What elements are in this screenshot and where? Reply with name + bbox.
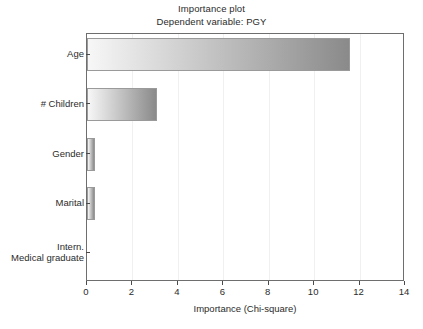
importance-plot-chart: Importance plot Dependent variable: PGY … — [0, 0, 423, 329]
x-axis-tick-label: 12 — [344, 286, 374, 298]
x-axis-tick-label: 10 — [298, 286, 328, 298]
y-axis-tick-mark — [86, 203, 90, 204]
chart-subtitle: Dependent variable: PGY — [0, 15, 423, 28]
y-axis-tick-label: # Children — [0, 98, 84, 109]
y-axis-labels: Age# ChildrenGenderMaritalIntern. Medica… — [0, 33, 84, 281]
x-axis-tick-label: 6 — [207, 286, 237, 298]
x-axis-tick-mark — [404, 281, 405, 285]
x-axis-tick-label: 8 — [253, 286, 283, 298]
y-axis-tick-label: Marital — [0, 197, 84, 208]
y-axis-tick-mark — [86, 54, 90, 55]
y-axis-tick-label: Intern. Medical graduate — [0, 241, 84, 263]
x-axis-tick-mark — [313, 281, 314, 285]
x-axis-tick-mark — [222, 281, 223, 285]
bar — [87, 88, 157, 121]
x-axis-tick-mark — [86, 281, 87, 285]
x-axis-tick-mark — [177, 281, 178, 285]
x-axis-title: Importance (Chi-square) — [86, 303, 404, 314]
bars-layer — [87, 34, 403, 280]
y-axis-tick-mark — [86, 103, 90, 104]
x-axis-tick-mark — [359, 281, 360, 285]
y-axis-tick-mark — [86, 153, 90, 154]
x-axis-tick-label: 14 — [389, 286, 419, 298]
y-axis-tick-label: Age — [0, 48, 84, 59]
bar — [87, 38, 350, 71]
y-axis-tick-label: Gender — [0, 148, 84, 159]
bar — [87, 138, 95, 171]
x-axis-tick-label: 2 — [116, 286, 146, 298]
chart-title-block: Importance plot Dependent variable: PGY — [0, 2, 423, 28]
plot-area — [86, 33, 404, 281]
x-axis-tick-mark — [268, 281, 269, 285]
x-axis-tick-label: 4 — [162, 286, 192, 298]
y-axis-tick-mark — [86, 252, 90, 253]
x-axis-tick-label: 0 — [71, 286, 101, 298]
chart-title: Importance plot — [0, 2, 423, 15]
x-axis-tick-mark — [131, 281, 132, 285]
